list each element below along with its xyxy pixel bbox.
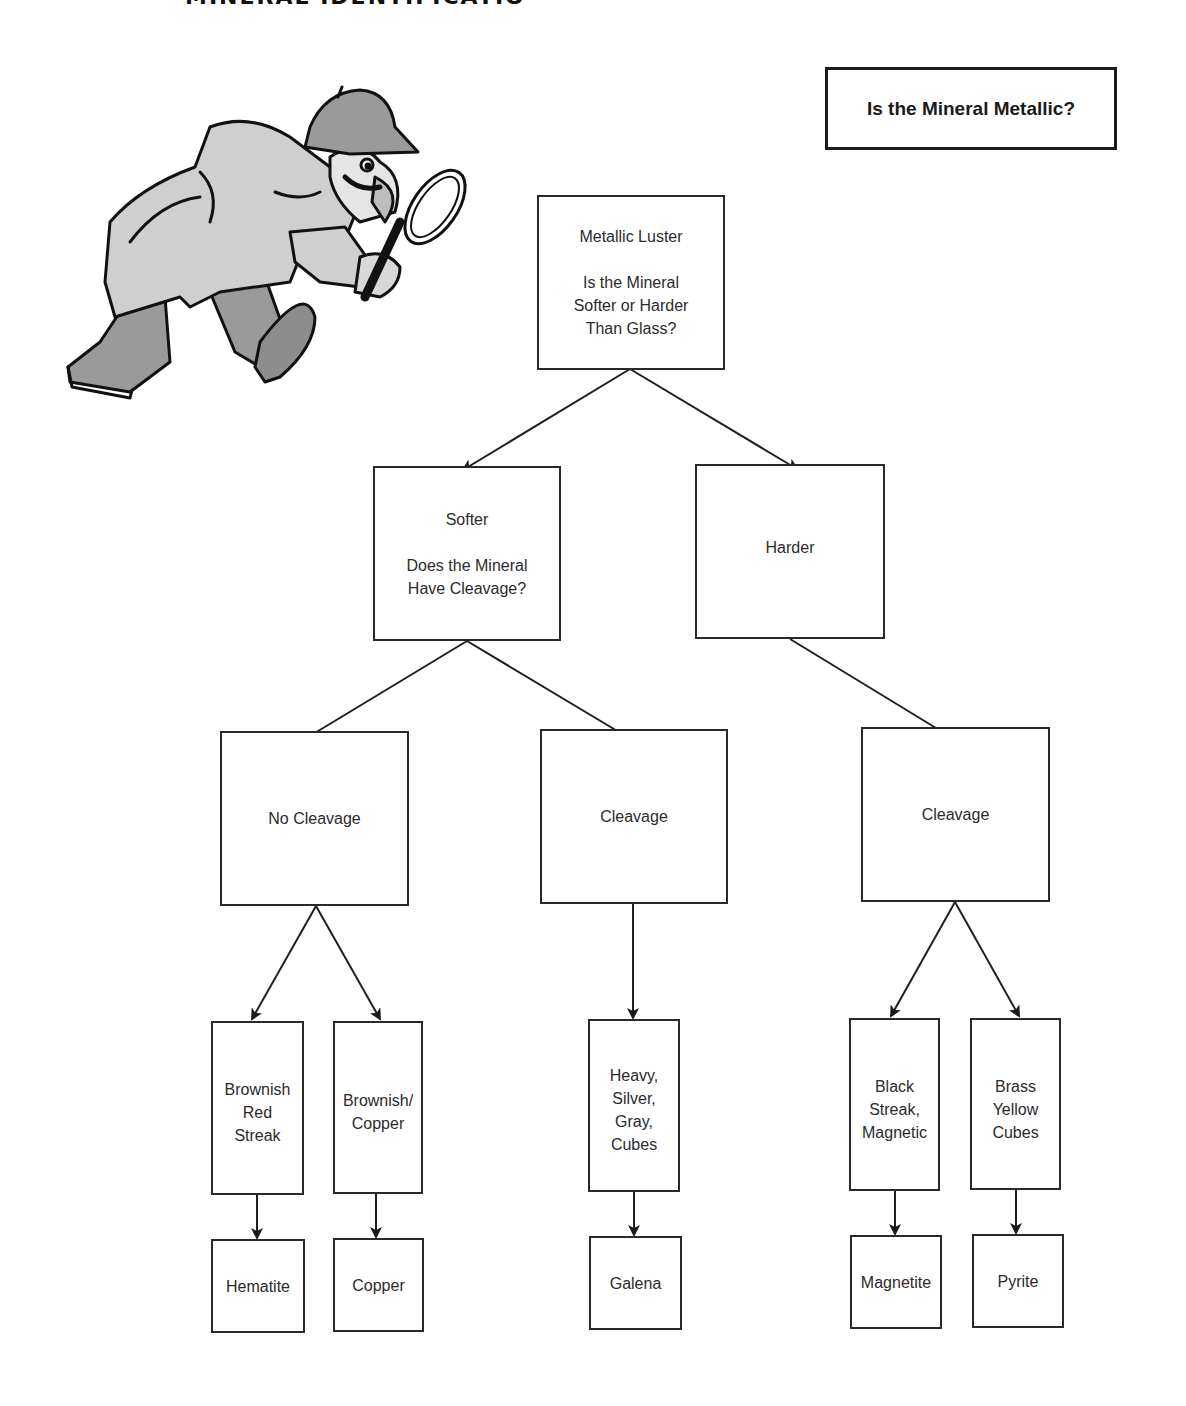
node-title: No Cleavage xyxy=(268,807,361,830)
node-question-line: Does the Mineral xyxy=(407,554,528,577)
property-line: Streak, xyxy=(869,1098,920,1121)
property-line: Cubes xyxy=(992,1121,1038,1144)
property-line: Streak xyxy=(234,1124,280,1147)
node-property-black-streak-magnetic: Black Streak, Magnetic xyxy=(849,1018,940,1191)
node-title: Cleavage xyxy=(922,803,990,826)
mineral-label: Pyrite xyxy=(998,1270,1039,1293)
mineral-label: Galena xyxy=(610,1272,662,1295)
property-line: Silver, xyxy=(612,1087,656,1110)
property-line: Copper xyxy=(352,1112,404,1135)
node-metallic-luster: Metallic Luster Is the Mineral Softer or… xyxy=(537,195,725,370)
node-property-heavy-silver-gray-cubes: Heavy, Silver, Gray, Cubes xyxy=(588,1019,680,1192)
node-property-brass-yellow-cubes: Brass Yellow Cubes xyxy=(970,1018,1061,1190)
node-property-brownish-copper: Brownish/ Copper xyxy=(333,1021,423,1194)
node-question-line: Is the Mineral xyxy=(583,271,679,294)
node-harder: Harder xyxy=(695,464,885,639)
node-softer: Softer Does the Mineral Have Cleavage? xyxy=(373,466,561,641)
property-line: Cubes xyxy=(611,1133,657,1156)
node-title: Metallic Luster xyxy=(579,225,682,248)
mineral-label: Magnetite xyxy=(861,1271,931,1294)
node-property-brownish-red-streak: Brownish Red Streak xyxy=(211,1021,304,1195)
node-mineral-galena: Galena xyxy=(589,1236,682,1330)
node-soft-cleavage: Cleavage xyxy=(540,729,728,904)
node-question-line: Have Cleavage? xyxy=(408,577,526,600)
property-line: Red xyxy=(243,1101,272,1124)
node-question-line: Than Glass? xyxy=(586,317,677,340)
node-title: Harder xyxy=(766,536,815,559)
mineral-label: Copper xyxy=(352,1274,404,1297)
property-line: Gray, xyxy=(615,1110,653,1133)
node-mineral-pyrite: Pyrite xyxy=(972,1234,1064,1328)
property-line: Brownish xyxy=(225,1078,291,1101)
node-title: Softer xyxy=(446,508,489,531)
property-line: Heavy, xyxy=(610,1064,659,1087)
node-no-cleavage: No Cleavage xyxy=(220,731,409,906)
mineral-label: Hematite xyxy=(226,1275,290,1298)
property-line: Brass xyxy=(995,1075,1036,1098)
node-mineral-magnetite: Magnetite xyxy=(850,1235,942,1329)
node-mineral-copper: Copper xyxy=(333,1238,424,1332)
property-line: Black xyxy=(875,1075,914,1098)
node-hard-cleavage: Cleavage xyxy=(861,727,1050,902)
node-question-line: Softer or Harder xyxy=(574,294,689,317)
node-title: Cleavage xyxy=(600,805,668,828)
node-mineral-hematite: Hematite xyxy=(211,1239,305,1333)
property-line: Magnetic xyxy=(862,1121,927,1144)
property-line: Brownish/ xyxy=(343,1089,413,1112)
property-line: Yellow xyxy=(993,1098,1039,1121)
